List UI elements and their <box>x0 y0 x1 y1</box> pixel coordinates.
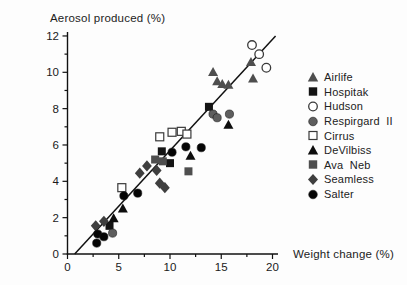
legend-marker-triangle-icon <box>306 71 320 84</box>
legend-item-salter: Salter <box>306 187 393 202</box>
legend-item-cirrus: Cirrus <box>306 128 393 143</box>
point-hudson <box>255 50 264 59</box>
point-airlife <box>248 73 258 82</box>
scatter-figure: Aerosol produced (%) 02468101205101520 W… <box>0 0 407 285</box>
point-ava-neb <box>184 167 192 175</box>
point-ava-neb <box>159 157 167 165</box>
point-hospitak <box>166 159 174 167</box>
point-salter <box>100 233 108 241</box>
circle-glyph <box>309 117 318 126</box>
square-glyph <box>309 161 317 169</box>
legend-label-airlife: Airlife <box>324 71 353 83</box>
legend-marker-triangle-icon <box>306 144 320 157</box>
legend-marker-circle-icon <box>306 115 320 128</box>
point-cirrus <box>183 130 191 138</box>
legend-marker-square-icon <box>306 158 320 171</box>
point-seamless <box>91 220 101 231</box>
legend-item-airlife: Airlife <box>306 70 393 85</box>
plot-legend: AirlifeHospitakHudsonRespirgard IICirrus… <box>306 70 393 201</box>
legend-item-respirgard-ii: Respirgard II <box>306 114 393 129</box>
legend-item-ava-neb: Ava Neb <box>306 158 393 173</box>
point-seamless <box>152 165 162 176</box>
triangle-glyph <box>308 145 318 154</box>
square-glyph <box>309 88 317 96</box>
point-devilbiss <box>223 120 233 129</box>
legend-label-hospitak: Hospitak <box>324 86 368 98</box>
point-salter <box>197 144 205 152</box>
x-axis-title: Weight change (%) <box>293 248 394 260</box>
point-salter <box>120 192 128 200</box>
point-hudson <box>248 41 257 50</box>
legend-label-salter: Salter <box>324 188 354 200</box>
legend-item-hudson: Hudson <box>306 99 393 114</box>
point-respirgard-ii <box>213 114 221 122</box>
y-tick-label: 12 <box>46 30 59 42</box>
triangle-glyph <box>308 72 318 81</box>
point-cirrus <box>156 133 164 141</box>
y-tick-label: 0 <box>53 248 59 260</box>
x-tick-label: 20 <box>266 261 279 273</box>
legend-label-hudson: Hudson <box>324 100 363 112</box>
x-tick-label: 10 <box>164 261 177 273</box>
point-cirrus <box>118 184 126 192</box>
point-salter <box>93 239 101 247</box>
point-hudson <box>262 63 271 72</box>
legend-marker-circle-icon <box>306 188 320 201</box>
legend-marker-diamond-icon <box>306 173 320 186</box>
point-respirgard-ii <box>109 229 117 237</box>
square-open-glyph <box>309 132 317 140</box>
legend-item-devilbiss: DeVilbiss <box>306 143 393 158</box>
point-devilbiss <box>186 151 196 160</box>
legend-marker-square-icon <box>306 85 320 98</box>
point-respirgard-ii <box>225 110 233 118</box>
y-tick-label: 2 <box>53 212 59 224</box>
legend-item-seamless: Seamless <box>306 172 393 187</box>
y-tick-label: 6 <box>53 139 59 151</box>
x-tick-label: 5 <box>116 261 122 273</box>
point-ava-neb <box>151 156 159 164</box>
legend-label-cirrus: Cirrus <box>324 130 355 142</box>
point-salter <box>168 148 176 156</box>
y-tick-label: 8 <box>53 103 59 115</box>
point-salter <box>182 143 190 151</box>
x-tick-label: 15 <box>215 261 228 273</box>
legend-label-respirgard-ii: Respirgard II <box>324 115 393 127</box>
x-tick-label: 0 <box>64 261 70 273</box>
point-cirrus <box>168 128 176 136</box>
legend-marker-square-open-icon <box>306 129 320 142</box>
legend-item-hospitak: Hospitak <box>306 85 393 100</box>
point-hospitak <box>158 147 166 155</box>
circle-glyph <box>309 190 318 199</box>
circle-open-glyph <box>309 102 318 111</box>
y-tick-label: 4 <box>53 175 60 187</box>
point-seamless <box>135 168 145 179</box>
y-tick-label: 10 <box>46 66 59 78</box>
point-salter <box>134 189 142 197</box>
point-seamless <box>142 160 152 171</box>
legend-label-devilbiss: DeVilbiss <box>324 144 371 156</box>
diamond-glyph <box>308 174 318 185</box>
point-hospitak <box>205 103 213 111</box>
legend-marker-circle-open-icon <box>306 100 320 113</box>
legend-label-seamless: Seamless <box>324 173 374 185</box>
legend-label-ava-neb: Ava Neb <box>324 159 371 171</box>
point-airlife <box>208 67 218 76</box>
